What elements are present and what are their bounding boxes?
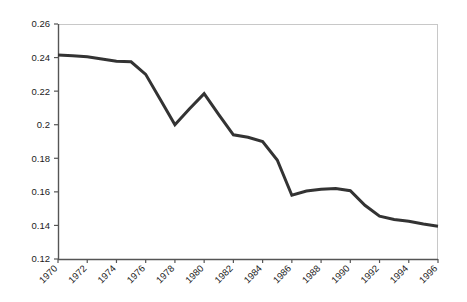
chart-canvas: 0.120.140.160.180.20.220.240.26 19701972… [0, 0, 467, 302]
y-tick-label: 0.22 [32, 86, 51, 97]
y-tick-label: 0.18 [32, 153, 51, 164]
y-tick-label: 0.26 [32, 18, 51, 29]
y-tick-label: 0.24 [32, 52, 51, 63]
y-tick-label: 0.16 [32, 186, 51, 197]
y-tick-label: 0.2 [37, 119, 50, 130]
y-tick-label: 0.12 [32, 253, 51, 264]
plot-area-background [58, 24, 438, 259]
y-tick-label: 0.14 [32, 220, 51, 231]
line-chart: 0.120.140.160.180.20.220.240.26 19701972… [0, 0, 467, 302]
